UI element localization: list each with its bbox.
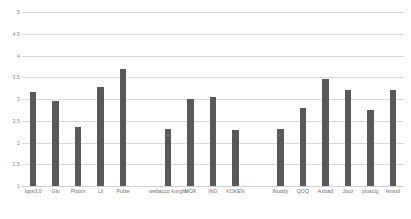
x-axis-tick-label: Pulze [116,188,129,195]
bar [300,108,307,186]
x-axis-tick-label: Glo [52,188,60,195]
bar [187,99,194,186]
x-axis-tick-label: MOK [185,188,197,195]
y-axis-tick-label: 4 [2,53,20,59]
bar [30,92,37,186]
bar [165,129,172,186]
y-axis-tick-label: 3 [2,96,20,102]
x-axis-tick-label: pluscig [362,188,379,195]
bar-chart: 54.543.532.521.51 iqos3.0GloPloomLilPulz… [0,0,411,219]
x-axis-tick-label: ING [208,188,217,195]
bar [232,130,239,186]
bar [120,69,127,186]
x-axis: iqos3.0GloPloomLilPulzewebacco kungfuMOK… [22,188,404,202]
bar [52,101,59,186]
bar-series [22,12,404,186]
y-axis-tick-label: 3.5 [2,74,20,80]
x-axis-tick-label: Lil [98,188,103,195]
bar [322,79,329,186]
y-axis-tick-label: 2 [2,140,20,146]
x-axis-tick-label: KOKEN [226,188,244,195]
bar [75,127,82,186]
y-axis-tick-label: 1 [2,183,20,189]
bar [367,110,374,186]
bar [97,87,104,186]
y-axis-tick-label: 4.5 [2,31,20,37]
x-axis-tick-label: QOQ [297,188,309,195]
x-axis-tick-label: Ismod [386,188,400,195]
bar [390,90,397,186]
x-axis-tick-label: webacco kungfu [149,188,187,195]
bar [210,97,217,186]
y-axis-tick-label: 1.5 [2,161,20,167]
x-axis-tick-label: Axbad [318,188,333,195]
x-axis-tick-label: Jouz [342,188,353,195]
y-axis: 54.543.532.521.51 [0,12,20,186]
x-axis-tick-label: Ibuddy [272,188,288,195]
x-axis-tick-label: iqos3.0 [25,188,42,195]
y-axis-tick-label: 5 [2,9,20,15]
x-axis-tick-label: Ploom [71,188,86,195]
bar [345,90,352,186]
y-axis-tick-label: 2.5 [2,118,20,124]
bar [277,129,284,186]
gridline [22,186,404,187]
